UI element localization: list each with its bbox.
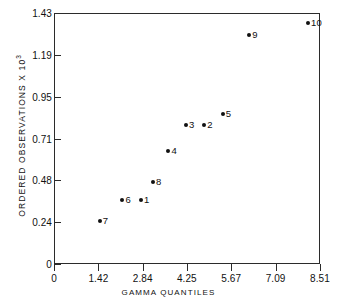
data-point-label: 5 — [226, 109, 231, 119]
x-tick-label: 1.42 — [88, 273, 108, 284]
y-tick-mark — [54, 264, 61, 265]
x-tick-mark — [187, 264, 188, 271]
y-axis-title: ORDERED OBSERVATIONS X 103 — [15, 11, 27, 261]
y-axis-title-text: ORDERED OBSERVATIONS X 10 — [17, 59, 27, 217]
x-tick-mark — [54, 264, 55, 271]
y-tick-label: 0.95 — [32, 92, 52, 103]
data-point-label: 2 — [207, 121, 212, 131]
x-tick-mark — [320, 264, 321, 271]
x-tick-label: 2.84 — [133, 273, 153, 284]
data-point — [166, 149, 170, 153]
data-point — [221, 112, 225, 116]
gamma-quantile-plot: 00.240.480.710.951.191.43 01.422.844.255… — [0, 0, 337, 301]
data-point-label: 9 — [252, 30, 257, 40]
y-tick-label: 0.71 — [32, 134, 52, 145]
x-tick-label: 4.25 — [177, 273, 197, 284]
data-point — [306, 21, 310, 25]
data-point-label: 7 — [103, 216, 108, 226]
data-point-label: 6 — [125, 195, 130, 205]
data-point — [139, 198, 143, 202]
x-tick-mark — [276, 264, 277, 271]
y-tick-label: 1.19 — [32, 50, 52, 61]
data-point — [247, 33, 251, 37]
x-tick-mark — [98, 264, 99, 271]
x-tick-label: 5.67 — [221, 273, 241, 284]
y-tick-label: 0 — [46, 259, 52, 270]
y-axis-title-exponent: 3 — [15, 55, 22, 59]
data-point — [184, 123, 188, 127]
data-point — [202, 123, 206, 127]
x-tick-label: 0 — [51, 273, 57, 284]
scatter-data-layer: 76184325910 — [54, 13, 320, 264]
y-tick-label: 1.43 — [32, 8, 52, 19]
data-point-label: 8 — [156, 177, 161, 187]
y-tick-label: 0.48 — [32, 174, 52, 185]
data-point-label: 1 — [144, 195, 149, 205]
x-tick-mark — [231, 264, 232, 271]
x-tick-mark — [143, 264, 144, 271]
x-tick-label: 7.09 — [266, 273, 286, 284]
x-axis-title: GAMMA QUANTILES — [0, 288, 337, 297]
data-point-label: 10 — [311, 18, 322, 28]
data-point — [98, 219, 102, 223]
data-point-label: 3 — [189, 121, 194, 131]
data-point — [120, 198, 124, 202]
y-tick-label: 0.24 — [32, 216, 52, 227]
data-point-label: 4 — [171, 146, 176, 156]
data-point — [151, 180, 155, 184]
x-tick-label: 8.51 — [310, 273, 330, 284]
